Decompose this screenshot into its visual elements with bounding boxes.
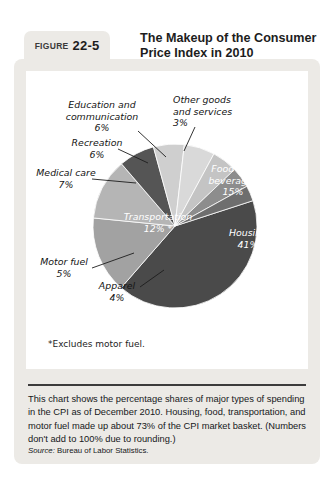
figure-source: Source: Bureau of Labor Statistics.: [28, 446, 310, 455]
figure-tab: FIGURE 22-5: [24, 31, 110, 60]
pie-label-housing: Housing 41%: [215, 227, 281, 250]
source-label: Source:: [28, 446, 55, 455]
pie-label-medical-care: Medical care 7%: [30, 167, 102, 190]
chart-footnote: *Excludes motor fuel.: [48, 339, 145, 349]
pie-label-other-goods-and-services: Other goods and services 3%: [173, 94, 245, 129]
figure-card: The Makeup of the Consumer Price Index i…: [14, 59, 320, 464]
pie-label-recreation: Recreation 6%: [59, 137, 135, 160]
pie-label-apparel: Apparel 4%: [90, 280, 144, 303]
chart-area: Education and communication 6% Other goo…: [26, 71, 308, 369]
figure-label: FIGURE: [35, 41, 69, 51]
caption-divider: [28, 384, 306, 386]
figure-title: The Makeup of the Consumer Price Index i…: [140, 31, 330, 61]
figure-panel: FIGURE 22-5 The Makeup of the Consumer P…: [0, 0, 334, 478]
pie-label-education-and-communication: Education and communication 6%: [54, 99, 150, 134]
pie-label-motor-fuel: Motor fuel 5%: [32, 256, 96, 279]
source-text: Bureau of Labor Statistics.: [57, 446, 148, 455]
figure-caption: This chart shows the percentage shares o…: [28, 393, 310, 447]
pie-label-transportation: Transportation 12% *: [110, 211, 206, 234]
figure-number: 22-5: [73, 38, 100, 53]
pie-label-food-and-beverages: Food and beverages 15%: [198, 163, 268, 198]
